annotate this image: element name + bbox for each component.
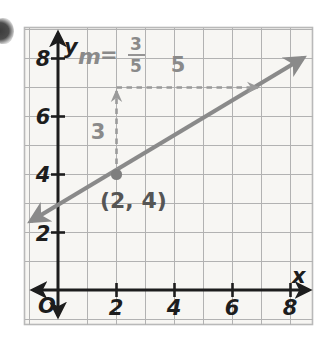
- graph-figure: 8 6 4 2 2 4 6 8 O x y m = 3 5 3 5 (2, 4): [0, 0, 324, 339]
- slope-equals-sign: =: [100, 43, 118, 67]
- x-tick-label-4: 4: [166, 296, 182, 320]
- y-tick-label-6: 6: [36, 105, 51, 129]
- x-tick-label-8: 8: [283, 296, 298, 320]
- x-tick-label-6: 6: [225, 296, 240, 320]
- y-axis-name: y: [64, 35, 79, 59]
- y-tick-label-8: 8: [36, 47, 51, 71]
- y-tick-label-2: 2: [36, 222, 51, 246]
- x-tick-label-2: 2: [109, 296, 124, 320]
- coordinate-plane-svg: 8 6 4 2 2 4 6 8 O x y m = 3 5 3 5 (2, 4): [0, 0, 324, 339]
- point-coordinate-label: (2, 4): [100, 188, 167, 213]
- x-axis-name: x: [291, 264, 307, 288]
- origin-label: O: [38, 294, 56, 318]
- slope-numerator: 3: [130, 34, 142, 54]
- slope-denominator: 5: [130, 56, 142, 76]
- plotted-point-2-4: [111, 169, 122, 180]
- y-tick-label-4: 4: [35, 163, 51, 187]
- rise-label: 3: [91, 120, 106, 144]
- slope-variable-label: m: [78, 44, 101, 69]
- run-label: 5: [171, 53, 186, 77]
- plot-frame: [25, 28, 313, 325]
